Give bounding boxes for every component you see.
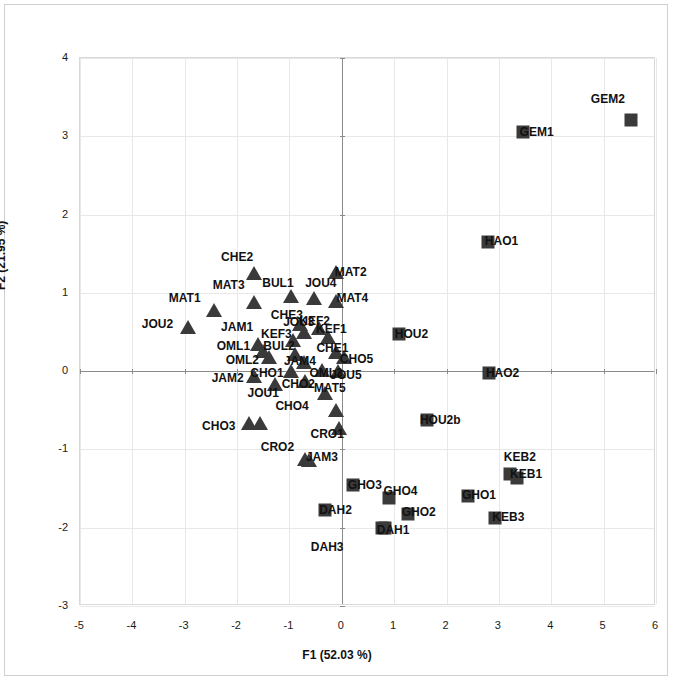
data-point-triangle [206, 303, 222, 317]
data-point-square [625, 113, 638, 126]
data-point-label: JOU2 [142, 318, 173, 330]
data-point-label: CRO2 [261, 441, 294, 453]
x-tick-label: 0 [338, 619, 344, 631]
y-axis-tick [340, 528, 345, 529]
x-axis-title: F1 (52.03 %) [0, 648, 674, 662]
data-point-label: OML1 [217, 340, 250, 352]
y-tick-label: 3 [40, 129, 68, 141]
data-point-label: DAH3 [311, 541, 344, 553]
gridline-horizontal [80, 136, 654, 137]
data-point-label: CHE2 [221, 251, 253, 263]
x-tick-label: 5 [600, 619, 606, 631]
data-point-label: CHO4 [275, 400, 308, 412]
data-point-triangle [246, 266, 262, 280]
x-axis-zero-line [80, 371, 654, 372]
gridline-vertical [132, 58, 133, 604]
y-axis-tick [340, 606, 345, 607]
data-point-label: KEF1 [316, 323, 347, 335]
y-tick-label: 2 [40, 208, 68, 220]
y-axis-tick [340, 58, 345, 59]
data-point-label: JAM1 [221, 321, 253, 333]
data-point-triangle [180, 320, 196, 334]
gridline-vertical [80, 58, 81, 604]
x-axis-tick [394, 369, 395, 374]
gridline-horizontal [80, 606, 654, 607]
data-point-triangle [252, 416, 268, 430]
x-axis-tick [447, 369, 448, 374]
data-point-label: MAT1 [169, 292, 201, 304]
pca-scatter-figure: CHE2MAT2MAT3BUL1JOU4MAT1MAT4JOU2CHE3JOU3… [0, 0, 674, 682]
data-point-label: KEB2 [504, 451, 536, 463]
x-tick-label: -2 [231, 619, 241, 631]
data-point-label: GEM2 [591, 93, 625, 105]
y-tick-label: -2 [40, 521, 68, 533]
data-point-label: MAT3 [213, 279, 245, 291]
x-tick-label: 1 [390, 619, 396, 631]
data-point-label: MAT4 [336, 292, 368, 304]
gridline-vertical [551, 58, 552, 604]
gridline-horizontal [80, 528, 654, 529]
gridline-vertical [604, 58, 605, 604]
data-point-label: HOU2 [395, 328, 428, 340]
data-point-label: HAO1 [485, 235, 518, 247]
x-tick-label: -3 [179, 619, 189, 631]
y-tick-label: -3 [40, 599, 68, 611]
x-tick-label: -5 [74, 619, 84, 631]
y-tick-label: 4 [40, 51, 68, 63]
data-point-triangle [283, 289, 299, 303]
data-point-triangle [246, 295, 262, 309]
x-axis-tick [551, 369, 552, 374]
data-point-label: CRO1 [310, 428, 343, 440]
data-point-label: CHO1 [250, 367, 283, 379]
data-point-label: JOU4 [305, 277, 336, 289]
data-point-label: JAM4 [284, 355, 316, 367]
data-point-label: BUL1 [262, 277, 293, 289]
data-point-label: DAH2 [319, 504, 352, 516]
x-tick-label: 6 [652, 619, 658, 631]
y-tick-label: -1 [40, 442, 68, 454]
data-point-label: GHO4 [383, 485, 417, 497]
x-tick-label: 2 [442, 619, 448, 631]
data-point-label: CHO3 [202, 420, 235, 432]
x-tick-label: 3 [495, 619, 501, 631]
data-point-triangle [328, 403, 344, 417]
data-point-label: JAM3 [306, 451, 338, 463]
data-point-label: JAM2 [212, 372, 244, 384]
data-point-label: GHO1 [462, 489, 496, 501]
gridline-horizontal [80, 58, 654, 59]
x-tick-label: -1 [284, 619, 294, 631]
data-point-label: MAT5 [314, 382, 346, 394]
y-axis-tick [340, 449, 345, 450]
data-point-label: CHO5 [340, 353, 373, 365]
x-axis-tick [185, 369, 186, 374]
x-axis-tick [656, 369, 657, 374]
data-point-label: JOU1 [248, 387, 279, 399]
y-axis-title: F2 (21.95 %) [0, 221, 8, 290]
data-point-label: GHO2 [402, 506, 436, 518]
gridline-horizontal [80, 449, 654, 450]
data-point-triangle [306, 291, 322, 305]
x-tick-label: -4 [126, 619, 136, 631]
x-axis-tick [132, 369, 133, 374]
y-tick-label: 0 [40, 364, 68, 376]
y-axis-tick [340, 136, 345, 137]
data-point-label: GHO3 [348, 479, 382, 491]
data-point-label: JOU5 [330, 369, 361, 381]
x-axis-tick [80, 369, 81, 374]
data-point-label: BUL2 [263, 340, 294, 352]
data-point-label: HAO2 [486, 367, 519, 379]
x-tick-label: 4 [547, 619, 553, 631]
plot-area: CHE2MAT2MAT3BUL1JOU4MAT1MAT4JOU2CHE3JOU3… [79, 57, 655, 605]
data-point-label: HOU2b [420, 414, 461, 426]
data-point-label: OML2 [226, 354, 259, 366]
data-point-label: CHO2 [282, 378, 315, 390]
y-tick-label: 1 [40, 286, 68, 298]
data-point-label: GEM1 [520, 126, 554, 138]
data-point-label: KEB3 [492, 511, 524, 523]
gridline-vertical [447, 58, 448, 604]
data-point-label: KEB1 [510, 468, 542, 480]
y-axis-tick [340, 215, 345, 216]
gridline-vertical [656, 58, 657, 604]
data-point-label: MAT2 [335, 266, 367, 278]
data-point-label: DAH1 [377, 524, 410, 536]
